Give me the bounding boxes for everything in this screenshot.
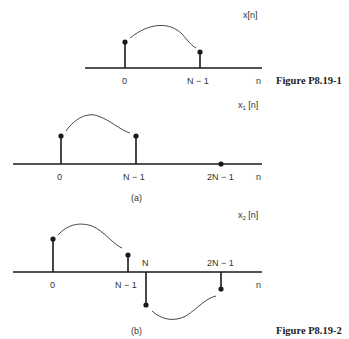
stem-marker-nN-1 [197,49,202,54]
figure-p8-19-1: x[n] 0 N − 1 n Figure P8.19-1 [85,10,342,86]
figure-p8-19-2a: x1 [n] 0 N − 1 2N − 1 n (a) [13,100,262,203]
tick-label-N-1: N − 1 [115,280,137,290]
zero-sample-marker-2N-1 [218,161,223,166]
axis-label-n: n [256,280,261,290]
envelope-curve-negative [152,296,216,319]
tick-label-2N-1: 2N − 1 [207,172,234,182]
figure-caption: Figure P8.19-1 [276,75,342,86]
tick-label-0: 0 [57,172,62,182]
signal-label: x[n] [243,10,258,20]
tick-label-0: 0 [122,76,127,86]
panel-label: (b) [131,326,142,336]
axis-label-n: n [256,76,261,86]
stem-marker-n0 [58,133,63,138]
stem-marker-nN [143,302,148,307]
envelope-curve-positive [58,224,122,248]
tick-label-2N-1: 2N − 1 [207,258,234,268]
stem-marker-nN-1 [125,252,130,257]
stem-marker-nN-1 [133,133,138,138]
axis-label-n: n [256,172,261,182]
figure-caption: Figure P8.19-2 [276,325,342,336]
tick-label-N: N [142,258,149,268]
signal-label: x1 [n] [238,100,258,111]
tick-label-0: 0 [50,280,55,290]
figure-canvas: x[n] 0 N − 1 n Figure P8.19-1 x1 [n] 0 N… [0,0,349,339]
figure-p8-19-2b: x2 [n] 0 N − 1 N 2N − 1 n (b) Figure P8.… [13,210,342,336]
tick-label-N-1: N − 1 [187,76,209,86]
panel-label: (a) [131,193,142,203]
tick-label-N-1: N − 1 [123,172,145,182]
stem-marker-n0 [50,236,55,241]
stem-marker-n0 [122,39,127,44]
envelope-curve [66,115,130,133]
signal-label: x2 [n] [238,210,258,221]
stem-marker-n2N-1 [218,286,223,291]
envelope-curve [130,25,196,48]
